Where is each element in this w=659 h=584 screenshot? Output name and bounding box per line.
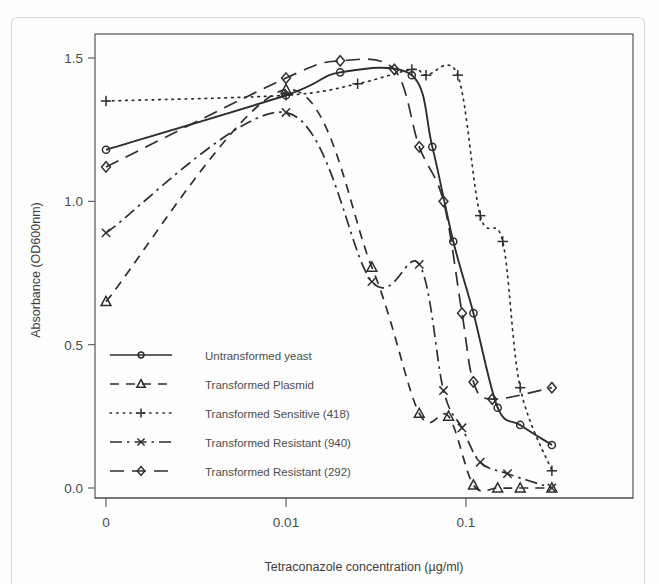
series-2 [101, 84, 557, 492]
series-line [106, 112, 552, 488]
data-point-plus [498, 236, 508, 246]
series-5 [102, 56, 557, 405]
data-point-circle [548, 441, 555, 448]
data-point-plus [475, 210, 485, 220]
legend-entry-5: Transformed Resistant (292) [110, 466, 351, 478]
data-point-cross [458, 424, 466, 432]
series-1 [102, 68, 555, 449]
data-point-plus [101, 96, 111, 106]
data-point-plus [547, 466, 557, 476]
data-point-cross [415, 260, 423, 268]
data-series-layer [101, 56, 557, 492]
x-axis-ticks: 00.010.1 [95, 498, 633, 530]
series-line [106, 68, 552, 445]
x-tick-label: 0.1 [457, 515, 476, 530]
legend-entry-3: Transformed Sensitive (418) [110, 408, 350, 420]
data-point-cross [368, 277, 376, 285]
data-point-triangle [493, 483, 503, 492]
data-point-cross [102, 229, 110, 237]
y-tick-label: 0.5 [64, 338, 83, 353]
series-4 [102, 108, 556, 492]
data-point-plus [421, 70, 431, 80]
legend-label: Transformed Resistant (292) [205, 466, 351, 478]
series-line [106, 89, 552, 491]
data-point-diamond [547, 382, 556, 392]
data-point-cross [503, 470, 511, 478]
plot-frame [95, 34, 633, 498]
data-point-plus [453, 70, 463, 80]
data-point-triangle [137, 380, 145, 388]
series-line [106, 59, 552, 399]
data-point-diamond [102, 162, 111, 172]
scanned-page: 0.00.51.01.5 00.010.1 Untransformed yeas… [0, 0, 659, 584]
y-axis-ticks: 0.00.51.01.5 [64, 51, 95, 496]
x-tick-label: 0.01 [273, 515, 299, 530]
y-axis-title: Absorbance (OD600nm) [29, 202, 43, 337]
y-tick-label: 0.0 [64, 481, 83, 496]
data-point-plus [352, 79, 362, 89]
data-point-plus [137, 409, 146, 418]
x-tick-label: 0 [102, 515, 110, 530]
legend-entry-4: Transformed Resistant (940) [110, 437, 351, 449]
legend-entry-2: Transformed Plasmid [110, 379, 314, 391]
data-point-cross [476, 458, 484, 466]
legend-label: Transformed Plasmid [205, 379, 314, 391]
data-point-triangle [469, 480, 479, 489]
x-axis-title: Tetraconazole concentration (µg/ml) [265, 560, 464, 574]
y-tick-label: 1.0 [64, 194, 83, 209]
data-point-cross [439, 386, 447, 394]
legend-entry-1: Untransformed yeast [110, 350, 313, 362]
legend-label: Transformed Resistant (940) [205, 437, 351, 449]
chart-figure: 0.00.51.01.5 00.010.1 Untransformed yeas… [0, 0, 659, 584]
y-tick-label: 1.5 [64, 51, 83, 66]
legend-label: Transformed Sensitive (418) [205, 408, 350, 420]
legend-label: Untransformed yeast [205, 350, 313, 362]
data-point-plus [515, 382, 525, 392]
chart-legend: Untransformed yeastTransformed PlasmidTr… [110, 350, 351, 478]
